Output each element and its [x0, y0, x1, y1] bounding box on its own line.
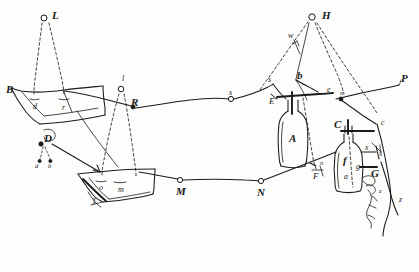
label-s2: s [268, 76, 271, 84]
label-T: T [92, 198, 96, 206]
label-n1: n [340, 90, 343, 97]
label-s1: s [229, 89, 232, 97]
label-G: G [371, 168, 379, 179]
label-b2: b [48, 163, 51, 170]
label-F: F [313, 172, 319, 181]
node-markers [39, 14, 343, 184]
wire-lower [139, 152, 336, 181]
label-w: w [288, 32, 293, 40]
label-d2: d [35, 163, 38, 170]
figure-canvas: .ink { fill:none; stroke:#1a1a1a; stroke… [0, 0, 419, 272]
label-z1: z [379, 188, 382, 195]
node-l [118, 86, 124, 92]
dashed-to-L [34, 23, 64, 94]
label-s3: s [379, 150, 382, 158]
label-e: e [327, 86, 331, 94]
node-H [309, 14, 315, 20]
label-g1: g [356, 163, 360, 171]
label-n2: n [320, 160, 323, 167]
label-P: P [401, 73, 408, 84]
label-m: m [118, 186, 124, 194]
label-D: D [44, 133, 52, 144]
dashed-drops-D [38, 147, 52, 163]
jar-A [278, 92, 308, 168]
node-s [228, 96, 233, 101]
label-M: M [176, 186, 186, 197]
rays-from-H [260, 22, 377, 113]
jagged-edge-right [367, 124, 398, 236]
label-r: r [62, 104, 65, 112]
label-C: C [334, 119, 341, 130]
label-b: b [297, 70, 303, 81]
label-B: B [6, 84, 13, 95]
label-f: f [343, 155, 347, 166]
label-l: l [122, 75, 124, 83]
jar-C [334, 120, 374, 193]
node-M [177, 177, 182, 182]
label-c: c [381, 119, 385, 127]
label-x: x [365, 144, 369, 152]
label-H: H [322, 10, 331, 21]
node-L [41, 15, 47, 21]
label-R: R [131, 97, 138, 108]
label-L: L [52, 10, 59, 21]
wire-sloping-P [336, 80, 401, 124]
label-A: A [289, 133, 296, 144]
node-D [39, 142, 43, 146]
dashed-through-jar-A [303, 98, 316, 169]
junction-b [296, 80, 318, 100]
label-E: E [269, 97, 275, 106]
sketch-drawing: .ink { fill:none; stroke:#1a1a1a; stroke… [0, 0, 419, 272]
node-N [258, 178, 263, 183]
label-N: N [257, 187, 265, 198]
plate-lower-left [52, 144, 155, 207]
label-a: a [344, 173, 348, 181]
label-z2: z [399, 196, 402, 204]
label-o: o [99, 184, 103, 192]
label-d: d [33, 103, 37, 111]
node-n [339, 97, 343, 101]
